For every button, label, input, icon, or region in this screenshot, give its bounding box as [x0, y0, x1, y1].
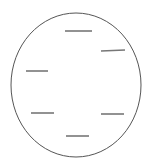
dash-upper-right — [101, 50, 125, 51]
background-rect — [0, 0, 153, 167]
figure-canvas: circle-with-dashes-diagram — [0, 0, 153, 167]
circle-with-dashes-drawing — [0, 0, 153, 167]
